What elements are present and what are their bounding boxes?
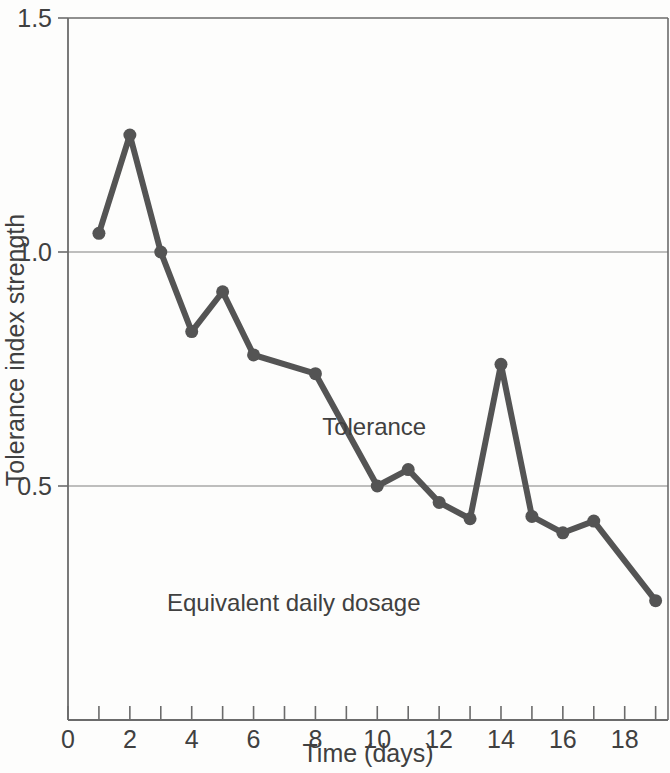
data-point	[402, 463, 415, 476]
data-point	[556, 526, 569, 539]
x-tick-label-0: 0	[61, 725, 75, 753]
x-tick-label-2: 2	[123, 725, 137, 753]
data-point	[433, 496, 446, 509]
annotation-tolerance: Tolerance	[322, 413, 426, 440]
data-point	[185, 325, 198, 338]
y-axis-title: Tolerance index strength	[1, 214, 29, 486]
x-tick-label-6: 6	[247, 725, 261, 753]
chart-figure: 1.5 1.0 0.5 024681012141618 Time (days) …	[0, 0, 670, 773]
x-tick-label-16: 16	[549, 725, 577, 753]
chart-background	[0, 0, 670, 773]
data-point	[525, 510, 538, 523]
data-point	[371, 480, 384, 493]
data-point	[309, 367, 322, 380]
x-tick-label-14: 14	[487, 725, 515, 753]
x-tick-label-4: 4	[185, 725, 199, 753]
x-tick-label-18: 18	[611, 725, 639, 753]
y-tick-label-1.5: 1.5	[17, 4, 52, 32]
x-axis-title: Time (days)	[302, 739, 433, 767]
data-point	[464, 512, 477, 525]
data-point	[154, 246, 167, 259]
data-point	[123, 129, 136, 142]
tolerance-index-line-chart: 1.5 1.0 0.5 024681012141618 Time (days) …	[0, 0, 670, 773]
data-point	[587, 515, 600, 528]
data-point	[247, 348, 260, 361]
data-point	[649, 594, 662, 607]
data-point	[216, 285, 229, 298]
data-point	[494, 358, 507, 371]
data-point	[92, 227, 105, 240]
annotation-equivalent-daily-dosage: Equivalent daily dosage	[167, 589, 421, 616]
